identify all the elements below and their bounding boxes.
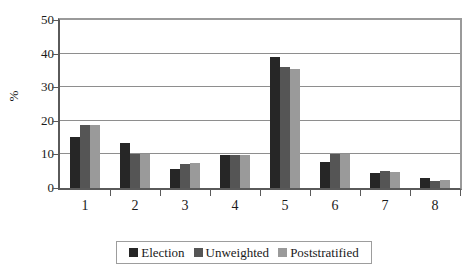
y-tick-mark-20 xyxy=(52,121,58,122)
x-tick-label-8: 8 xyxy=(415,198,455,214)
bar-election-cat-5 xyxy=(270,57,280,188)
x-tick-mark-5 xyxy=(310,190,311,196)
bar-unweighted-cat-2 xyxy=(130,154,140,188)
chart-legend: ElectionUnweightedPoststratified xyxy=(116,241,372,264)
bar-election-cat-1 xyxy=(70,137,80,188)
legend-swatch-unweighted xyxy=(194,248,203,257)
y-tick-mark-0 xyxy=(52,188,58,189)
x-tick-label-4: 4 xyxy=(215,198,255,214)
x-tick-label-5: 5 xyxy=(265,198,305,214)
bar-chart: % 01020304050 12345678 ElectionUnweighte… xyxy=(0,0,474,276)
legend-swatch-poststratified xyxy=(278,248,287,257)
bar-unweighted-cat-7 xyxy=(380,171,390,188)
bar-poststratified-cat-1 xyxy=(90,125,100,188)
bar-unweighted-cat-6 xyxy=(330,154,340,188)
legend-label-election: Election xyxy=(141,246,184,259)
y-tick-mark-30 xyxy=(52,87,58,88)
y-tick-mark-40 xyxy=(52,54,58,55)
y-tick-label-0: 0 xyxy=(26,181,54,194)
bar-poststratified-cat-4 xyxy=(240,155,250,188)
gridline-30 xyxy=(60,86,460,87)
y-tick-label-30: 30 xyxy=(26,80,54,93)
bar-poststratified-cat-6 xyxy=(340,154,350,188)
legend-item-election: Election xyxy=(129,246,184,259)
x-tick-label-3: 3 xyxy=(165,198,205,214)
bar-unweighted-cat-3 xyxy=(180,164,190,188)
y-tick-label-50: 50 xyxy=(26,13,54,26)
x-tick-mark-2 xyxy=(160,190,161,196)
bar-unweighted-cat-5 xyxy=(280,67,290,188)
bar-unweighted-cat-8 xyxy=(430,181,440,188)
x-tick-label-6: 6 xyxy=(315,198,355,214)
legend-label-unweighted: Unweighted xyxy=(206,246,270,259)
legend-label-poststratified: Poststratified xyxy=(290,246,359,259)
x-tick-label-7: 7 xyxy=(365,198,405,214)
bar-poststratified-cat-8 xyxy=(440,180,450,188)
gridline-20 xyxy=(60,120,460,121)
x-tick-mark-6 xyxy=(360,190,361,196)
bar-election-cat-8 xyxy=(420,178,430,188)
x-tick-label-2: 2 xyxy=(115,198,155,214)
bar-election-cat-4 xyxy=(220,155,230,188)
y-tick-label-20: 20 xyxy=(26,114,54,127)
x-tick-mark-8 xyxy=(460,190,461,196)
gridline-40 xyxy=(60,53,460,54)
bar-unweighted-cat-1 xyxy=(80,125,90,188)
x-tick-mark-1 xyxy=(110,190,111,196)
bar-poststratified-cat-5 xyxy=(290,69,300,188)
bar-unweighted-cat-4 xyxy=(230,155,240,188)
x-tick-label-1: 1 xyxy=(65,198,105,214)
x-tick-mark-4 xyxy=(260,190,261,196)
y-tick-label-40: 40 xyxy=(26,47,54,60)
bar-poststratified-cat-3 xyxy=(190,163,200,188)
y-tick-mark-10 xyxy=(52,154,58,155)
bar-election-cat-3 xyxy=(170,169,180,188)
y-axis-title: % xyxy=(6,86,22,106)
x-tick-mark-3 xyxy=(210,190,211,196)
bar-election-cat-2 xyxy=(120,143,130,188)
legend-items: ElectionUnweightedPoststratified xyxy=(129,246,358,259)
plot-area xyxy=(58,18,462,190)
legend-swatch-election xyxy=(129,248,138,257)
y-tick-label-10: 10 xyxy=(26,147,54,160)
bar-election-cat-6 xyxy=(320,162,330,188)
bar-poststratified-cat-2 xyxy=(140,154,150,188)
x-tick-mark-7 xyxy=(410,190,411,196)
legend-item-poststratified: Poststratified xyxy=(278,246,359,259)
y-tick-mark-50 xyxy=(52,20,58,21)
bar-poststratified-cat-7 xyxy=(390,172,400,188)
bar-election-cat-7 xyxy=(370,173,380,188)
legend-item-unweighted: Unweighted xyxy=(194,246,270,259)
